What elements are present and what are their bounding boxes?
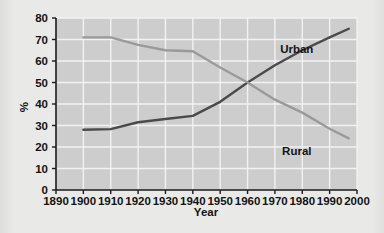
y-axis-tick-labels: 01020304050607080 — [35, 12, 48, 196]
y-axis-tick-label: 40 — [35, 98, 48, 110]
y-axis-tick-label: 10 — [35, 163, 48, 175]
line-chart: 01020304050607080 1890190019101920193019… — [0, 0, 384, 233]
y-axis-tick-label: 60 — [35, 55, 48, 67]
y-axis-tick-label: 70 — [35, 34, 48, 46]
x-axis-tick-label: 1920 — [125, 195, 151, 207]
x-axis-tick-label: 1910 — [98, 195, 124, 207]
x-axis-title: Year — [194, 206, 219, 218]
x-axis-tick-label: 1970 — [262, 195, 288, 207]
x-axis-tick-label: 1900 — [71, 195, 97, 207]
x-axis-tick-label: 1890 — [43, 195, 69, 207]
y-axis-tick-label: 50 — [35, 77, 48, 89]
x-axis-tick-label: 1960 — [235, 195, 261, 207]
y-axis-tick-label: 20 — [35, 141, 48, 153]
series-label-rural: Rural — [282, 145, 311, 157]
y-axis-tick-label: 30 — [35, 120, 48, 132]
y-axis-tick-label: 80 — [35, 12, 48, 24]
series-label-urban: Urban — [280, 43, 313, 55]
chart-figure: 01020304050607080 1890190019101920193019… — [0, 0, 384, 233]
x-axis-tick-label: 2000 — [344, 195, 370, 207]
x-axis-tick-label: 1980 — [289, 195, 315, 207]
x-axis-tick-label: 1930 — [153, 195, 179, 207]
x-axis-tick-label: 1990 — [317, 195, 343, 207]
y-axis-title: % — [18, 102, 30, 112]
